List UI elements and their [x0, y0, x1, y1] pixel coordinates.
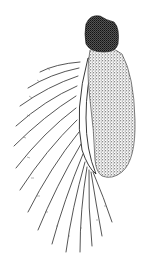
seta [20, 76, 78, 106]
seta [80, 167, 87, 252]
seta [38, 144, 81, 230]
seta [28, 132, 79, 212]
seta [91, 172, 102, 236]
main-segment [88, 48, 135, 178]
seta [89, 170, 92, 246]
distal-segment [85, 16, 119, 52]
seta [20, 120, 77, 190]
specimen-illustration [0, 0, 146, 259]
seta [40, 62, 80, 72]
seta [16, 86, 77, 126]
seta [93, 172, 112, 222]
